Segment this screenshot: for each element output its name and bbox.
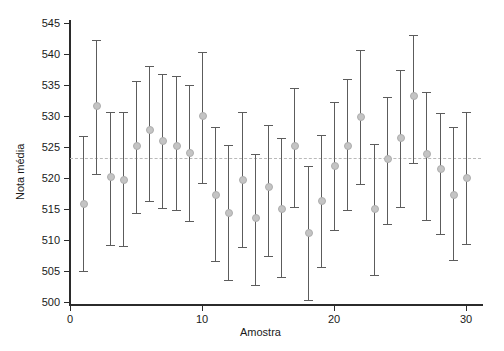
errorbar-upper-cap (462, 112, 471, 113)
mean-marker (423, 150, 431, 158)
errorbar-upper-cap (224, 145, 233, 146)
errorbar-lower-cap (317, 267, 326, 268)
errorbar-sample-26 (408, 35, 419, 163)
mean-marker (199, 112, 207, 120)
y-tick-500 (64, 302, 69, 303)
mean-marker (450, 191, 458, 199)
mean-marker (120, 176, 128, 184)
errorbar-sample-10 (197, 52, 208, 183)
mean-marker (371, 205, 379, 213)
errorbar-upper-cap (211, 127, 220, 128)
errorbar-lower-cap (145, 201, 154, 202)
errorbar-lower-cap (462, 244, 471, 245)
errorbar-upper-cap (145, 66, 154, 67)
errorbar-upper-cap (290, 88, 299, 89)
errorbar-lower-cap (409, 163, 418, 164)
errorbar-lower-cap (436, 234, 445, 235)
y-tick-530 (64, 116, 69, 117)
errorbar-lower-cap (132, 213, 141, 214)
x-tick-label-30: 30 (451, 314, 481, 325)
errorbar-lower-cap (383, 224, 392, 225)
errorbar-lower-cap (330, 230, 339, 231)
x-tick-0 (70, 306, 71, 311)
errorbar-lower-cap (172, 210, 181, 211)
y-tick-520 (64, 178, 69, 179)
y-tick-540 (64, 54, 69, 55)
errorbar-upper-cap (383, 97, 392, 98)
errorbar-sample-28 (435, 113, 446, 234)
errorbar-lower-cap (422, 220, 431, 221)
mean-marker (80, 200, 88, 208)
errorbar-sample-20 (329, 102, 340, 230)
errorbar-sample-23 (369, 144, 380, 275)
errorbar-upper-cap (436, 113, 445, 114)
errorbar-lower-cap (158, 208, 167, 209)
errorbar-upper-cap (277, 138, 286, 139)
mean-marker (146, 126, 154, 134)
errorbar-sample-12 (223, 145, 234, 280)
x-tick-label-0: 0 (55, 314, 85, 325)
errorbar-sample-6 (144, 66, 155, 201)
y-tick-label-515: 515 (26, 204, 60, 215)
errorbar-upper-cap (449, 127, 458, 128)
errorbar-lower-cap (304, 300, 313, 301)
errorbar-sample-2 (91, 40, 102, 174)
errorbar-sample-18 (303, 166, 314, 301)
mean-marker (318, 197, 326, 205)
plot-area (70, 23, 481, 303)
y-tick-535 (64, 85, 69, 86)
errorbar-lower-cap (251, 285, 260, 286)
errorbar-upper-cap (132, 81, 141, 82)
y-tick-505 (64, 271, 69, 272)
errorbar-upper-cap (92, 40, 101, 41)
mean-marker (357, 113, 365, 121)
errorbar-upper-cap (422, 92, 431, 93)
errorbar-lower-cap (238, 247, 247, 248)
mean-marker (107, 173, 115, 181)
errorbar-sample-25 (395, 70, 406, 208)
errorbar-upper-cap (409, 35, 418, 36)
mean-marker (252, 214, 260, 222)
y-tick-label-500: 500 (26, 297, 60, 308)
mean-marker (173, 142, 181, 150)
errorbar-upper-cap (251, 154, 260, 155)
y-tick-label-540: 540 (26, 49, 60, 60)
mean-marker (305, 229, 313, 237)
mean-marker (291, 142, 299, 150)
x-tick-20 (334, 306, 335, 311)
errorbar-lower-cap (185, 221, 194, 222)
errorbar-upper-cap (79, 136, 88, 137)
y-tick-545 (64, 23, 69, 24)
errorbar-sample-16 (276, 138, 287, 278)
errorbar-stem (149, 66, 150, 201)
errorbar-upper-cap (119, 112, 128, 113)
errorbar-sample-11 (210, 127, 221, 262)
y-tick-525 (64, 147, 69, 148)
errorbar-sample-13 (237, 112, 248, 247)
errorbar-sample-29 (448, 127, 459, 260)
mean-marker (463, 174, 471, 182)
y-tick-515 (64, 209, 69, 210)
errorbar-lower-cap (449, 260, 458, 261)
y-tick-label-525: 525 (26, 142, 60, 153)
x-axis-title: Amostra (240, 326, 281, 338)
x-tick-10 (202, 306, 203, 311)
mean-marker (410, 92, 418, 100)
errorbar-sample-21 (342, 79, 353, 210)
x-tick-30 (466, 306, 467, 311)
errorbar-sample-9 (184, 85, 195, 221)
errorbar-sample-30 (461, 112, 472, 245)
mean-marker (344, 142, 352, 150)
errorbar-sample-5 (131, 81, 142, 213)
errorbar-upper-cap (330, 102, 339, 103)
errorbar-lower-cap (224, 280, 233, 281)
errorbar-upper-cap (158, 74, 167, 75)
errorbar-stem (440, 113, 441, 234)
y-tick-label-510: 510 (26, 235, 60, 246)
x-tick-label-20: 20 (319, 314, 349, 325)
y-tick-510 (64, 240, 69, 241)
x-axis-line (69, 304, 483, 306)
errorbar-lower-cap (356, 184, 365, 185)
mean-marker (159, 137, 167, 145)
errorbar-upper-cap (185, 85, 194, 86)
